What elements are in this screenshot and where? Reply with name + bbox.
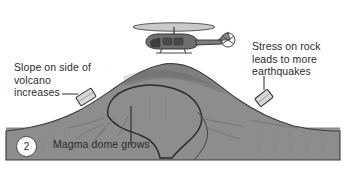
callout-label-right: Stress on rock leads to more earthquakes <box>252 40 321 78</box>
helicopter-skids <box>156 49 192 53</box>
helicopter-tail-boom <box>196 40 222 45</box>
callout-label-bottom: Magma dome grows <box>53 138 150 151</box>
helicopter-icon <box>133 23 235 53</box>
step-number-badge: 2 <box>16 136 37 157</box>
callout-label-left: Slope on side of volcano increases <box>14 61 91 99</box>
volcano-diagram-figure: Slope on side of volcano increases Stres… <box>0 0 348 178</box>
tilt-sensor-right <box>255 76 274 107</box>
